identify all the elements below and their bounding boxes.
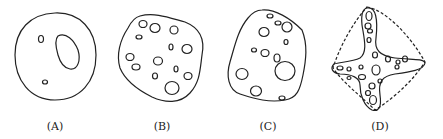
panel-d-shape bbox=[332, 7, 425, 110]
panel-c-shape bbox=[228, 10, 306, 101]
panel-b-shape bbox=[118, 15, 202, 102]
panel-b-label: (B) bbox=[132, 120, 192, 133]
figure-canvas bbox=[0, 0, 443, 139]
panel-a-label: (A) bbox=[25, 120, 85, 133]
panel-c-label: (C) bbox=[238, 120, 298, 133]
panel-a-shape bbox=[15, 13, 96, 100]
panel-d-label: (D) bbox=[350, 120, 410, 133]
